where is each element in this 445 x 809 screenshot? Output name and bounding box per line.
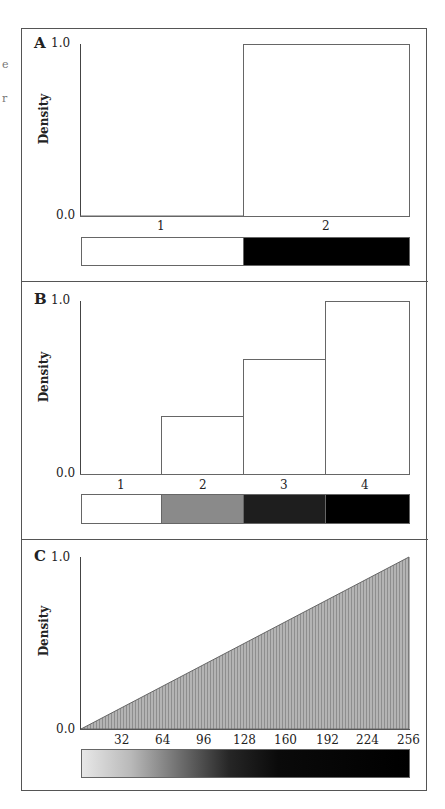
y-tick-top-b: 1.0	[51, 293, 70, 307]
x-tick-c-96: 96	[196, 733, 211, 747]
x-tick-c-256: 256	[397, 733, 420, 747]
colorbar-b-4	[326, 495, 410, 524]
colorbar-a-black	[244, 238, 410, 266]
panel-letter-b: B	[34, 290, 47, 308]
colorbar-b-2	[162, 495, 244, 524]
x-tick-c-160: 160	[274, 733, 297, 747]
y-tick-top-a: 1.0	[51, 36, 70, 50]
density-triangle	[81, 557, 409, 729]
x-tick-b-3: 3	[280, 478, 288, 492]
x-tick-b-4: 4	[361, 478, 369, 492]
x-tick-b-1: 1	[117, 478, 125, 492]
colorbar-b-3	[244, 495, 326, 524]
bar-b-3	[244, 360, 326, 475]
x-tick-c-128: 128	[233, 733, 256, 747]
y-tick-bottom-a: 0.0	[56, 208, 75, 222]
y-axis-label-b: Density	[37, 347, 51, 407]
x-tick-c-224: 224	[356, 733, 379, 747]
colorbar-a-white	[82, 238, 244, 266]
bar-a-2	[244, 45, 410, 217]
x-tick-c-192: 192	[316, 733, 339, 747]
y-tick-bottom-c: 0.0	[56, 722, 75, 736]
y-tick-bottom-b: 0.0	[56, 466, 75, 480]
y-axis-label-c: Density	[37, 601, 51, 661]
figure-graphics	[0, 0, 445, 809]
x-tick-a-2: 2	[322, 219, 330, 233]
bar-a-1	[81, 216, 244, 217]
x-tick-c-32: 32	[114, 733, 129, 747]
x-tick-a-1: 1	[157, 219, 165, 233]
y-tick-top-c: 1.0	[51, 550, 70, 564]
panel-a-plot	[80, 44, 410, 266]
colorbar-c-gradient	[82, 750, 410, 778]
panel-letter-c: C	[34, 547, 46, 565]
y-axis-label-a: Density	[37, 89, 51, 149]
colorbar-b-1	[82, 495, 162, 524]
bar-b-2	[162, 417, 244, 475]
x-tick-b-2: 2	[199, 478, 207, 492]
bar-b-4	[326, 302, 410, 475]
panel-letter-a: A	[34, 34, 46, 52]
x-tick-c-64: 64	[155, 733, 170, 747]
